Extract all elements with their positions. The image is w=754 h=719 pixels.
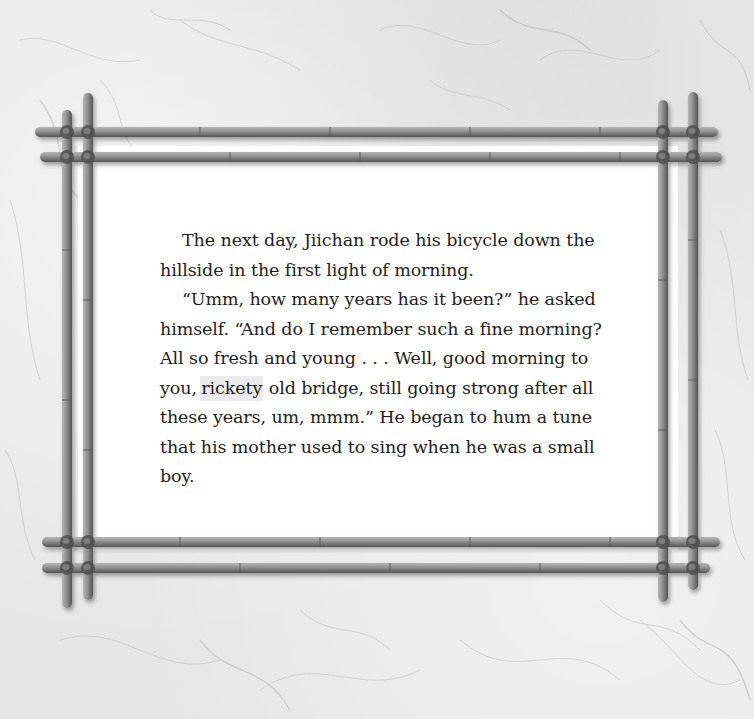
story-text: The next day, Jiichan rode his bicycle d…: [160, 226, 630, 492]
paragraph-1: The next day, Jiichan rode his bicycle d…: [160, 226, 630, 285]
highlighted-word-rickety[interactable]: rickety: [200, 376, 263, 401]
paragraph-1-text: The next day, Jiichan rode his bicycle d…: [160, 230, 595, 280]
paragraph-2: “Umm, how many years has it been?” he as…: [160, 285, 630, 492]
